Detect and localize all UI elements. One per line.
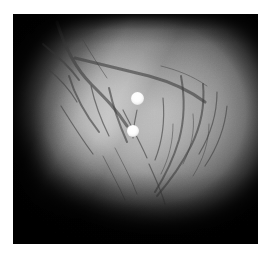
vessel-right-secondary (157, 84, 204, 196)
specular-highlight-upper (131, 92, 144, 105)
vessel-right-main (155, 76, 184, 192)
specular-highlight-lower (127, 125, 139, 137)
vessel-hair-upper-left (83, 40, 107, 78)
vessel-fine-left-lower (61, 106, 93, 154)
vessel-hair-centre-b (103, 156, 125, 200)
vessel-hair-centre-a (115, 148, 137, 194)
photographic-plate (13, 14, 258, 244)
image-page (0, 0, 270, 257)
vessel-major-arc-left (57, 22, 127, 126)
vessel-branch-left-descending (69, 76, 99, 132)
vessel-right-fan-c (155, 98, 164, 160)
